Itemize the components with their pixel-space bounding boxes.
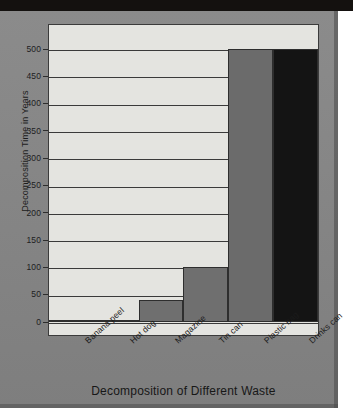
bar <box>49 320 94 322</box>
bar-slot <box>228 25 273 335</box>
scan-top-band <box>0 0 353 11</box>
page-edge-right <box>334 11 338 408</box>
bar-slot <box>273 25 318 335</box>
plot-inner <box>49 25 318 335</box>
bar-series <box>49 25 318 335</box>
bar-slot <box>49 25 94 335</box>
x-axis-label-slot: Banana peel <box>83 336 84 382</box>
y-axis-tick-label: 0 <box>36 317 41 326</box>
chart-page: 050100150200250300350400450500 Decomposi… <box>0 0 353 419</box>
x-axis-label-slot: Tin can <box>217 336 218 382</box>
y-axis-tick-label: 100 <box>27 263 41 272</box>
page-edge-bottom <box>0 404 338 408</box>
x-axis-label-slot: Magazine <box>173 336 174 382</box>
x-axis-title: Decomposition of Different Waste <box>48 384 319 398</box>
bar-slot <box>94 25 139 335</box>
x-axis-label-slot: Hot dog <box>128 336 129 382</box>
bar <box>273 49 318 322</box>
bar <box>139 300 184 322</box>
y-axis-tick-label: 50 <box>31 290 41 299</box>
x-axis-category-labels: Banana peelHot dogMagazineTin canPlastic… <box>48 336 319 382</box>
plot-area <box>48 24 319 336</box>
x-axis-label-slot: Drinks can <box>307 336 308 382</box>
bar <box>228 49 273 322</box>
bar <box>183 267 228 322</box>
y-axis-title: Decomposition Time in Years <box>20 66 30 236</box>
x-axis-label-slot: Plastic bag <box>262 336 263 382</box>
y-axis-tick-label: 500 <box>27 44 41 53</box>
y-axis-tick-label: 150 <box>27 235 41 244</box>
bar-slot <box>139 25 184 335</box>
bar-slot <box>183 25 228 335</box>
